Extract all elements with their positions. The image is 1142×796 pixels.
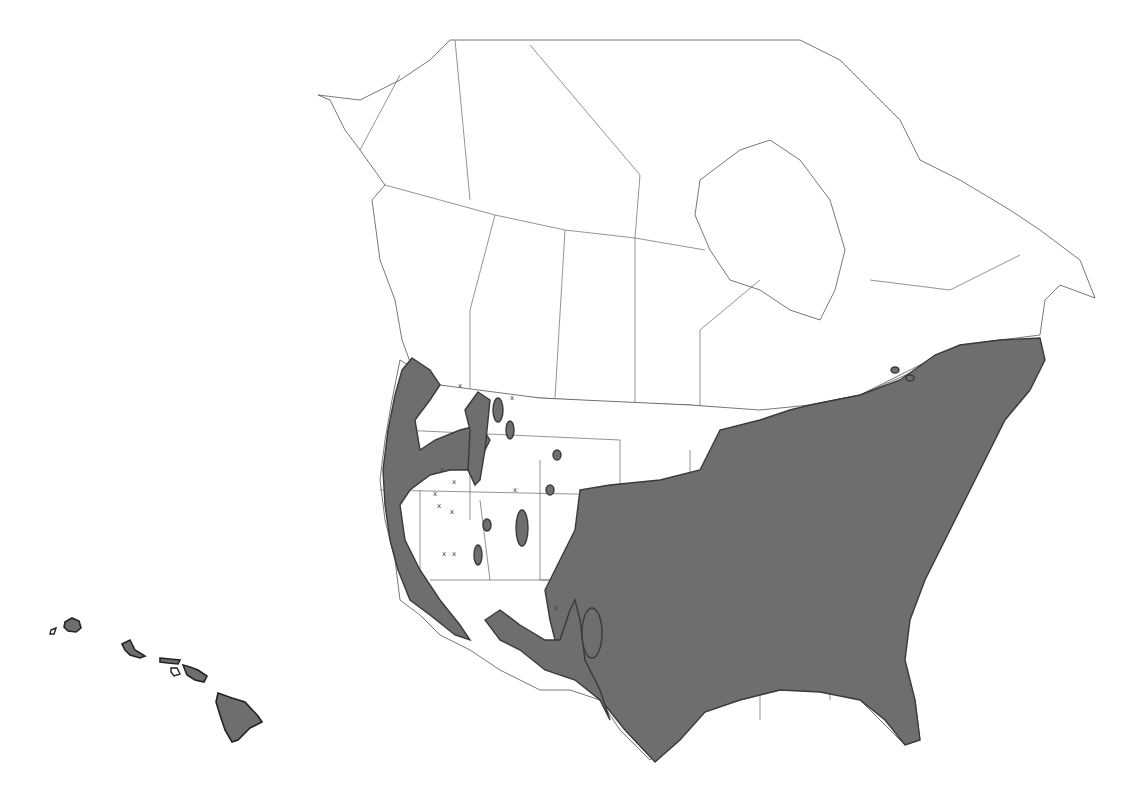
island-niihau: [50, 628, 56, 634]
svg-text:x: x: [442, 550, 446, 558]
range-patch: [506, 421, 514, 439]
svg-text:x: x: [458, 382, 462, 390]
svg-text:x: x: [513, 486, 517, 494]
svg-text:x: x: [440, 466, 444, 474]
range-patch: [906, 375, 914, 381]
range-patch: [474, 545, 482, 565]
island-molokai: [160, 658, 180, 664]
hawaii-inset: [50, 618, 262, 742]
island-hawaii: [216, 693, 262, 742]
svg-text:x: x: [437, 502, 441, 510]
range-patch: [493, 398, 503, 422]
range-map: x x x x x x x x x x x: [0, 0, 1142, 796]
range-patch: [483, 519, 491, 531]
svg-text:x: x: [510, 394, 514, 402]
svg-text:x: x: [450, 508, 454, 516]
svg-text:x: x: [554, 604, 558, 612]
svg-text:x: x: [433, 490, 437, 498]
island-maui: [183, 665, 207, 682]
range-patch: [516, 510, 528, 546]
range-patch: [891, 367, 899, 373]
island-lanai: [171, 668, 180, 676]
island-oahu: [122, 640, 145, 658]
island-kauai: [64, 618, 81, 632]
range-patch: [553, 450, 561, 460]
range-patch: [546, 485, 554, 495]
svg-text:x: x: [452, 550, 456, 558]
range-patch: [582, 608, 602, 658]
svg-text:x: x: [452, 478, 456, 486]
